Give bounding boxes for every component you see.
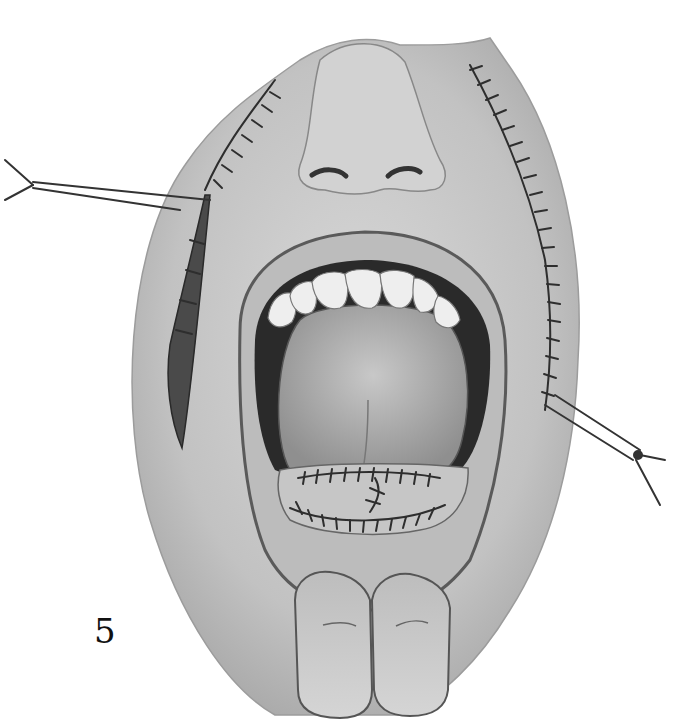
figure-canvas: 5	[0, 0, 700, 727]
mouth	[240, 232, 506, 610]
tongue	[279, 305, 468, 481]
figure-number-label: 5	[94, 614, 116, 648]
